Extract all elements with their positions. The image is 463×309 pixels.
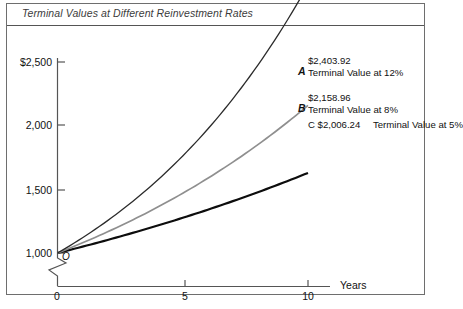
- annotation-b-value: $2,158.96: [308, 92, 398, 104]
- x-tick-label-10: 10: [296, 290, 320, 302]
- annotation-c-text: Terminal Value at 5%: [363, 119, 463, 130]
- annotation-c: C $2,006.24 Terminal Value at 5%: [308, 119, 463, 131]
- y-tick-label-2500: $2,500: [6, 56, 52, 68]
- curve-b-8-percent: [58, 105, 309, 253]
- curve-a-12-percent: [58, 0, 309, 253]
- curve-c-5-percent: [58, 173, 309, 253]
- y-tick-label-1000: 1,000: [6, 247, 52, 259]
- x-tick-label-0: 0: [45, 290, 69, 302]
- series-marker-b: B: [298, 103, 306, 115]
- y-tick-label-2000: 2,000: [6, 119, 52, 131]
- origin-label: O: [62, 251, 70, 262]
- series-marker-c: C: [308, 119, 315, 130]
- annotation-b: B $2,158.96 Terminal Value at 8%: [308, 92, 398, 115]
- annotation-c-value: $2,006.24: [318, 119, 361, 130]
- annotation-b-text: Terminal Value at 8%: [308, 104, 398, 116]
- annotation-a-value: $2,403.92: [308, 55, 403, 67]
- y-tick-label-1500: 1,500: [6, 184, 52, 196]
- annotation-a: A $2,403.92 Terminal Value at 12%: [308, 55, 403, 78]
- x-axis-title: Years: [340, 279, 366, 291]
- x-tick-label-5: 5: [173, 290, 197, 302]
- series-marker-a: A: [298, 66, 306, 78]
- annotation-a-text: Terminal Value at 12%: [308, 67, 403, 79]
